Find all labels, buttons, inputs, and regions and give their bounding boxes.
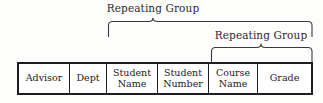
table-column-grade-label: Grade bbox=[270, 73, 300, 84]
table-column-dept-label: Dept bbox=[76, 73, 99, 84]
table-column-course-name-label: Course Name bbox=[216, 68, 250, 89]
table-column-advisor-label: Advisor bbox=[26, 73, 62, 84]
repeating-group-diagram: Repeating Group Repeating Group Advisor … bbox=[0, 0, 323, 103]
table-column-grade: Grade bbox=[258, 64, 311, 93]
schema-table: Advisor Dept Student Name Student Number… bbox=[17, 62, 313, 95]
table-column-student-number-label: Student Number bbox=[163, 68, 203, 89]
table-column-student-name-label: Student Name bbox=[113, 68, 151, 89]
table-column-student-name: Student Name bbox=[107, 64, 158, 93]
table-column-course-name: Course Name bbox=[209, 64, 258, 93]
table-column-student-number: Student Number bbox=[158, 64, 209, 93]
table-column-advisor: Advisor bbox=[19, 64, 70, 93]
table-column-dept: Dept bbox=[70, 64, 107, 93]
